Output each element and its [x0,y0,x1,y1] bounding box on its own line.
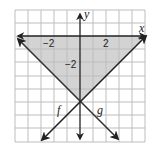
x-axis-label: x [138,21,145,35]
y-tick-neg2: −2 [65,59,77,70]
x-tick-neg2: −2 [43,38,55,49]
coordinate-graph: y x −2 2 −2 f g [0,0,158,150]
x-tick-pos2: 2 [103,38,109,49]
y-axis-label: y [83,7,90,21]
line-g-label: g [97,103,103,117]
